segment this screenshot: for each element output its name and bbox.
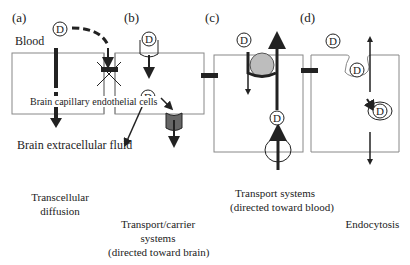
efflux-transporter-bottom (265, 132, 291, 170)
panel-label-d: (d) (300, 10, 315, 26)
extracellular-label: Brain extracellular fluid (17, 138, 132, 153)
panel-label-b: (b) (124, 10, 139, 26)
drug-label: D (353, 64, 361, 76)
drug-label: D (376, 105, 384, 117)
endocytosis-arrows (367, 39, 392, 162)
panel-label-a: (a) (12, 10, 26, 26)
blood-label: Blood (15, 34, 44, 49)
efflux-transporter (248, 40, 277, 110)
drug-label: D (329, 35, 337, 47)
caption-d: Endocytosis (340, 217, 405, 231)
drug-label: D (240, 34, 248, 46)
caption-a: Transcellulardiffusion (30, 190, 90, 218)
panel-label-c: (c) (205, 10, 219, 26)
endothelial-label: Brain capillary endothelial cells (30, 96, 157, 107)
diffusion-arrow (50, 118, 62, 128)
caption-b: Transport/carriersystems(directed toward… (108, 217, 208, 259)
drug-label: D (145, 33, 153, 45)
carrier-bottom (166, 113, 182, 142)
blocked-paracellular-route (72, 28, 121, 86)
caption-c: Transport systems(directed toward blood) (230, 186, 320, 214)
drug-label: D (273, 112, 281, 124)
drug-label: D (56, 23, 64, 35)
